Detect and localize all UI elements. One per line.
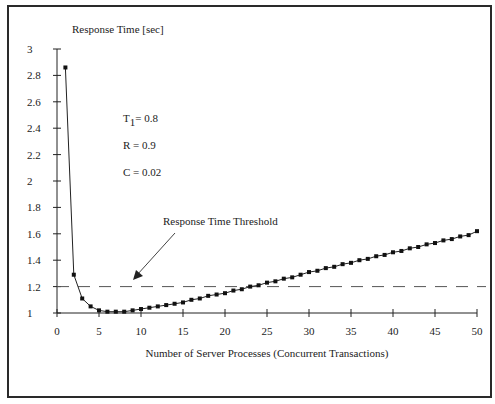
data-point-marker xyxy=(299,273,303,277)
data-point-marker xyxy=(315,269,319,273)
y-axis: 11.21.41.61.822.22.42.62.83 xyxy=(27,43,61,319)
data-point-marker xyxy=(425,242,429,246)
data-point-marker xyxy=(265,281,269,285)
x-axis: 05101520253035404550 xyxy=(54,309,483,337)
data-point-marker xyxy=(189,298,193,302)
data-point-marker xyxy=(206,294,210,298)
data-point-marker xyxy=(147,306,151,310)
param-r: R = 0.9 xyxy=(123,139,156,151)
response-time-line xyxy=(65,68,477,312)
data-point-marker xyxy=(156,304,160,308)
data-point-marker xyxy=(450,237,454,241)
data-point-marker xyxy=(114,310,118,314)
data-point-marker xyxy=(105,310,109,314)
data-point-marker xyxy=(173,302,177,306)
data-point-marker xyxy=(357,258,361,262)
data-point-marker xyxy=(72,273,76,277)
data-point-marker xyxy=(131,308,135,312)
data-point-marker xyxy=(215,293,219,297)
data-point-marker xyxy=(282,277,286,281)
data-point-marker xyxy=(366,257,370,261)
param-c: C = 0.02 xyxy=(123,166,161,178)
data-point-marker xyxy=(80,296,84,300)
parameter-annotations: T1= 0.8 R = 0.9 C = 0.02 xyxy=(123,112,161,178)
data-point-marker xyxy=(441,238,445,242)
y-tick-label: 1.6 xyxy=(27,228,41,240)
threshold-arrow xyxy=(133,233,175,280)
x-tick-label: 0 xyxy=(54,325,60,337)
data-point-marker xyxy=(349,261,353,265)
y-tick-label: 2.4 xyxy=(27,122,41,134)
data-point-marker xyxy=(433,241,437,245)
data-point-marker xyxy=(307,270,311,274)
x-tick-label: 20 xyxy=(220,325,232,337)
y-tick-label: 2 xyxy=(27,175,33,187)
data-point-marker xyxy=(164,303,168,307)
x-tick-label: 40 xyxy=(388,325,400,337)
data-point-marker xyxy=(467,233,471,237)
y-tick-label: 2.8 xyxy=(27,69,41,81)
data-point-marker xyxy=(332,265,336,269)
y-tick-label: 1 xyxy=(27,307,33,319)
data-point-marker xyxy=(248,285,252,289)
data-point-marker xyxy=(399,249,403,253)
y-tick-label: 2.2 xyxy=(27,149,41,161)
data-point-marker xyxy=(257,283,261,287)
x-tick-label: 15 xyxy=(178,325,190,337)
data-point-marker xyxy=(408,246,412,250)
x-tick-label: 50 xyxy=(472,325,484,337)
data-point-marker xyxy=(273,279,277,283)
threshold-label: Response Time Threshold xyxy=(163,215,278,227)
data-point-marker xyxy=(416,245,420,249)
data-point-marker xyxy=(458,234,462,238)
y-axis-label: Response Time [sec] xyxy=(72,23,164,35)
data-point-marker xyxy=(290,275,294,279)
data-point-marker xyxy=(97,308,101,312)
data-point-marker xyxy=(324,266,328,270)
data-point-marker xyxy=(391,250,395,254)
data-point-marker xyxy=(374,254,378,258)
data-point-marker xyxy=(89,304,93,308)
data-point-marker xyxy=(181,300,185,304)
x-tick-label: 25 xyxy=(262,325,274,337)
x-tick-label: 30 xyxy=(304,325,316,337)
data-point-marker xyxy=(198,296,202,300)
data-point-marker xyxy=(63,65,67,69)
response-time-markers xyxy=(63,65,479,313)
y-tick-label: 1.2 xyxy=(27,281,41,293)
data-point-marker xyxy=(231,289,235,293)
param-t1: T1= 0.8 xyxy=(123,112,158,128)
response-time-chart: Response Time [sec] Number of Server Pro… xyxy=(0,0,495,404)
data-point-marker xyxy=(383,253,387,257)
y-tick-label: 1.8 xyxy=(27,201,41,213)
data-point-marker xyxy=(475,229,479,233)
data-point-marker xyxy=(122,310,126,314)
data-point-marker xyxy=(139,307,143,311)
data-point-marker xyxy=(240,287,244,291)
y-tick-label: 2.6 xyxy=(27,96,41,108)
x-tick-label: 10 xyxy=(136,325,148,337)
data-point-marker xyxy=(223,291,227,295)
x-axis-label: Number of Server Processes (Concurrent T… xyxy=(146,347,389,360)
x-tick-label: 5 xyxy=(96,325,102,337)
data-point-marker xyxy=(341,262,345,266)
x-tick-label: 45 xyxy=(430,325,442,337)
x-tick-label: 35 xyxy=(346,325,358,337)
y-tick-label: 1.4 xyxy=(27,254,41,266)
y-tick-label: 3 xyxy=(27,43,33,55)
